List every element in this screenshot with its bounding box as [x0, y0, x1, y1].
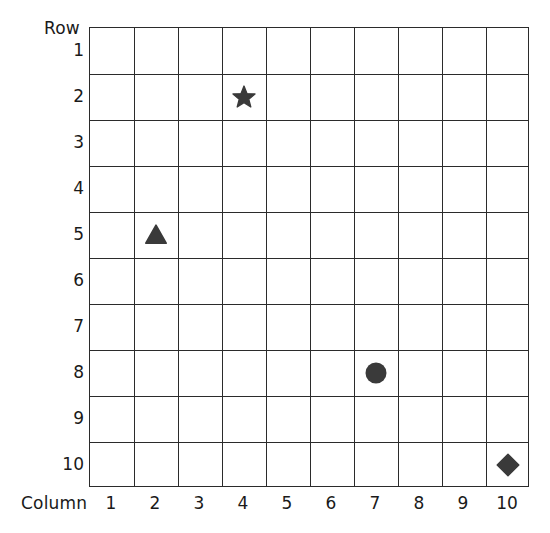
- column-tick-1: 1: [89, 495, 133, 512]
- grid-line-horizontal: [90, 396, 528, 397]
- column-tick-6: 6: [309, 495, 353, 512]
- row-tick-6: 6: [46, 272, 84, 289]
- star-icon: [231, 84, 257, 110]
- grid-line-vertical: [134, 28, 135, 486]
- diamond-icon: [495, 452, 521, 478]
- column-tick-5: 5: [265, 495, 309, 512]
- row-tick-9: 9: [46, 410, 84, 427]
- column-tick-8: 8: [397, 495, 441, 512]
- circle-icon: [363, 360, 389, 386]
- grid-line-vertical: [310, 28, 311, 486]
- row-tick-7: 7: [46, 318, 84, 335]
- column-axis-caption: Column: [21, 495, 87, 512]
- column-tick-10: 10: [485, 495, 529, 512]
- grid-line-horizontal: [90, 442, 528, 443]
- column-tick-3: 3: [177, 495, 221, 512]
- row-tick-1: 1: [46, 42, 84, 59]
- grid-line-vertical: [354, 28, 355, 486]
- row-tick-5: 5: [46, 226, 84, 243]
- grid-line-vertical: [178, 28, 179, 486]
- row-tick-2: 2: [46, 88, 84, 105]
- grid-line-vertical: [222, 28, 223, 486]
- grid-line-vertical: [442, 28, 443, 486]
- grid-line-vertical: [398, 28, 399, 486]
- column-tick-2: 2: [133, 495, 177, 512]
- grid-line-horizontal: [90, 120, 528, 121]
- triangle-icon: [143, 222, 169, 248]
- row-tick-8: 8: [46, 364, 84, 381]
- coordinate-grid[interactable]: [89, 27, 529, 487]
- row-tick-10: 10: [46, 456, 84, 473]
- grid-line-horizontal: [90, 74, 528, 75]
- grid-line-horizontal: [90, 304, 528, 305]
- grid-line-vertical: [266, 28, 267, 486]
- column-tick-9: 9: [441, 495, 485, 512]
- column-tick-7: 7: [353, 495, 397, 512]
- grid-line-horizontal: [90, 258, 528, 259]
- row-tick-4: 4: [46, 180, 84, 197]
- grid-line-horizontal: [90, 166, 528, 167]
- grid-line-horizontal: [90, 212, 528, 213]
- row-axis-caption: Row: [44, 20, 80, 37]
- grid-figure: Row Column 12345678910 12345678910: [0, 0, 550, 533]
- row-tick-3: 3: [46, 134, 84, 151]
- grid-line-vertical: [486, 28, 487, 486]
- grid-line-horizontal: [90, 350, 528, 351]
- column-tick-4: 4: [221, 495, 265, 512]
